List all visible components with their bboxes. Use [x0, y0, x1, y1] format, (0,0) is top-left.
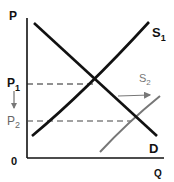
- supply-curve-s1: [32, 22, 149, 136]
- origin-label: 0: [11, 155, 17, 167]
- supply-demand-diagram: P 0 Q P1 P2 S1 S2 D: [0, 0, 174, 182]
- y-axis-label: P: [9, 9, 17, 23]
- s1-label: S1: [152, 25, 166, 43]
- s2-label: S2: [139, 72, 151, 87]
- d-label: D: [149, 141, 158, 156]
- x-axis-label: Q: [154, 168, 162, 179]
- shift-arrow-icon: [118, 95, 150, 96]
- p1-label: P1: [7, 76, 20, 93]
- p2-label: P2: [7, 114, 20, 130]
